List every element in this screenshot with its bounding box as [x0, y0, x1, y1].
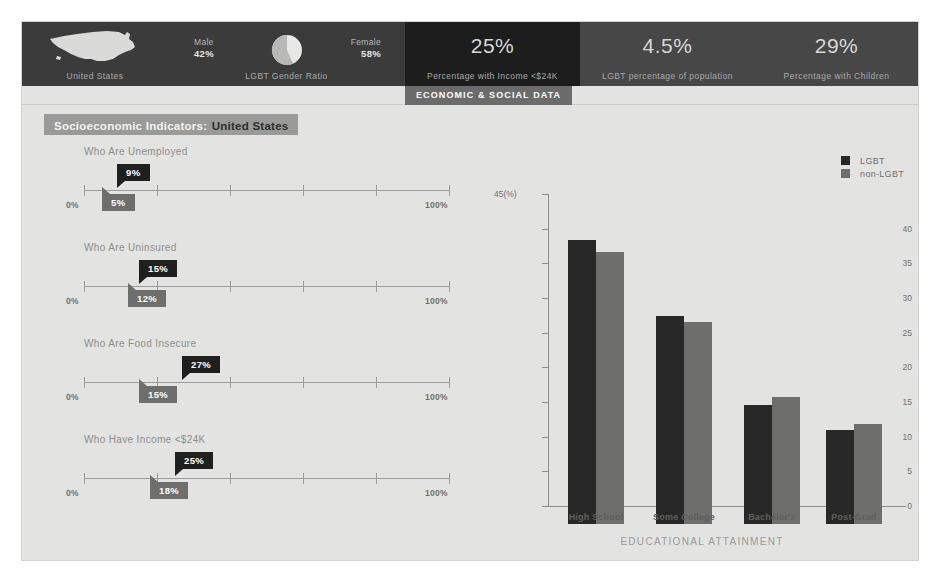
y-tick [542, 229, 548, 230]
axis-tick [449, 281, 450, 292]
slider-axis [84, 286, 449, 287]
axis-min-label: 0% [66, 200, 79, 210]
y-axis-title: 45(%) [494, 189, 517, 199]
tooltip-pointer-icon [175, 469, 183, 476]
slider-label: Who Are Food Insecure [84, 338, 196, 349]
male-value: 42% [194, 48, 214, 60]
y-tick-label: 25 [868, 329, 912, 337]
axis-tick [449, 377, 450, 388]
page-title-prefix: Socioeconomic Indicators: [54, 120, 207, 132]
x-tick-label: Post-Grad [798, 512, 910, 522]
y-tick-label: 15 [868, 398, 912, 406]
axis-tick [449, 185, 450, 196]
y-axis [548, 194, 549, 506]
tile-gender-ratio[interactable]: Male 42% Female 58% LGBT Gender Rati [168, 22, 405, 86]
y-tick [542, 471, 548, 472]
bar-non-lgbt[interactable] [772, 397, 800, 524]
page-title-region: United States [212, 120, 289, 132]
education-bar-chart: LGBT non-LGBT 45(%) 0 5 10 15 [492, 146, 912, 558]
chart-legend: LGBT non-LGBT [841, 152, 904, 178]
screenshot-root: United States Male 42% Female [0, 0, 939, 585]
male-label: Male [194, 36, 214, 48]
tooltip-pointer-icon [102, 187, 110, 194]
tooltip-value: 9% [126, 167, 141, 178]
y-tick [542, 402, 548, 403]
page-title: Socioeconomic Indicators: United States [44, 114, 298, 135]
tooltip-pointer-icon [139, 277, 147, 284]
slider-axis [84, 190, 449, 191]
bar-lgbt[interactable] [656, 316, 684, 524]
tile-caption: Percentage with Children [755, 71, 918, 81]
tab-economic-social-data[interactable]: ECONOMIC & SOCIAL DATA [405, 86, 572, 105]
y-tick-label: 20 [868, 363, 912, 371]
non-lgbt-value-tooltip[interactable]: 12% [128, 290, 166, 307]
y-tick [542, 263, 548, 264]
axis-tick [157, 185, 158, 196]
tile-with-children[interactable]: 29% Percentage with Children [755, 22, 918, 86]
axis-min-label: 0% [66, 296, 79, 306]
tooltip-pointer-icon [117, 181, 125, 188]
lgbt-value-tooltip[interactable]: 25% [175, 452, 213, 469]
axis-tick [84, 473, 85, 484]
tooltip-pointer-icon [182, 373, 190, 380]
legend-swatch-icon [841, 156, 850, 165]
non-lgbt-value-tooltip[interactable]: 5% [102, 194, 135, 211]
slider-row: Who Are Uninsured 0% 100% 15% 12% [44, 242, 484, 338]
legend-item-lgbt[interactable]: LGBT [841, 152, 904, 165]
axis-tick [303, 377, 304, 388]
male-stat: Male 42% [194, 36, 214, 60]
legend-swatch-icon [841, 169, 850, 178]
tooltip-value: 5% [111, 197, 126, 208]
female-value: 58% [351, 48, 381, 60]
tile-value: 25% [405, 34, 580, 58]
axis-tick [84, 185, 85, 196]
tooltip-pointer-icon [150, 475, 158, 482]
tile-income-under-24k[interactable]: 25% Percentage with Income <$24K [405, 22, 580, 86]
axis-tick [376, 185, 377, 196]
tile-united-states[interactable]: United States [22, 22, 168, 86]
bar-non-lgbt[interactable] [596, 252, 624, 524]
tooltip-value: 15% [148, 263, 168, 274]
tooltip-value: 27% [191, 359, 211, 370]
axis-tick [230, 281, 231, 292]
legend-label: non-LGBT [860, 169, 904, 179]
bar-non-lgbt[interactable] [854, 424, 882, 524]
lgbt-value-tooltip[interactable]: 15% [139, 260, 177, 277]
pie-chart-icon [271, 34, 303, 66]
y-tick [542, 194, 548, 195]
axis-max-label: 100% [425, 200, 448, 210]
axis-tick [376, 473, 377, 484]
female-stat: Female 58% [351, 36, 381, 60]
non-lgbt-value-tooltip[interactable]: 15% [139, 386, 177, 403]
tooltip-pointer-icon [128, 283, 136, 290]
lgbt-value-tooltip[interactable]: 27% [182, 356, 220, 373]
non-lgbt-value-tooltip[interactable]: 18% [150, 482, 188, 499]
bar-lgbt[interactable] [568, 240, 596, 524]
tooltip-value: 18% [159, 485, 179, 496]
y-tick [542, 333, 548, 334]
slider-row: Who Are Food Insecure 0% 100% 27% 15% [44, 338, 484, 434]
axis-tick [376, 281, 377, 292]
tile-caption: United States [22, 71, 168, 81]
bar-non-lgbt[interactable] [684, 322, 712, 524]
axis-tick [230, 377, 231, 388]
tile-lgbt-population[interactable]: 4.5% LGBT percentage of population [580, 22, 755, 86]
y-tick-label: 35 [868, 259, 912, 267]
slider-row: Who Are Unemployed 0% 100% 9% 5% [44, 146, 484, 242]
axis-max-label: 100% [425, 392, 448, 402]
kpi-tile-bar: United States Male 42% Female [22, 22, 918, 86]
tooltip-value: 15% [148, 389, 168, 400]
y-tick-label: 40 [868, 225, 912, 233]
legend-item-non-lgbt[interactable]: non-LGBT [841, 165, 904, 178]
bar-lgbt[interactable] [744, 405, 772, 524]
tooltip-value: 25% [184, 455, 204, 466]
axis-max-label: 100% [425, 296, 448, 306]
bar-lgbt[interactable] [826, 430, 854, 524]
lgbt-value-tooltip[interactable]: 9% [117, 164, 150, 181]
y-tick [542, 437, 548, 438]
axis-tick [303, 281, 304, 292]
axis-tick [230, 473, 231, 484]
axis-max-label: 100% [425, 488, 448, 498]
tile-value: 29% [755, 34, 918, 58]
tile-caption: LGBT percentage of population [580, 71, 755, 81]
